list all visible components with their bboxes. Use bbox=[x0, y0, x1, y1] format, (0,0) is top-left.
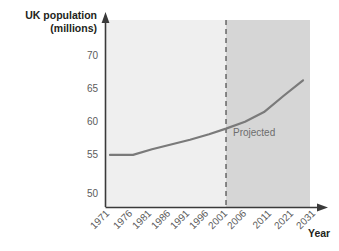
chart-canvas: 70 65 60 55 50 UK population (millions) … bbox=[0, 0, 339, 251]
population-line-chart: 70 65 60 55 50 UK population (millions) … bbox=[0, 0, 339, 251]
projected-region bbox=[226, 20, 310, 207]
y-tick-label-50: 50 bbox=[87, 188, 99, 199]
y-tick-label-55: 55 bbox=[87, 149, 99, 160]
y-tick-label-65: 65 bbox=[87, 83, 99, 94]
y-tick-label-70: 70 bbox=[87, 50, 99, 61]
y-axis-title-line1: UK population bbox=[25, 9, 97, 21]
y-tick-label-60: 60 bbox=[87, 116, 99, 127]
projected-annotation-label: Projected bbox=[233, 127, 275, 138]
x-axis-title: Year bbox=[308, 227, 330, 239]
y-axis-title-line2: (millions) bbox=[50, 22, 97, 34]
historical-region bbox=[106, 20, 226, 207]
